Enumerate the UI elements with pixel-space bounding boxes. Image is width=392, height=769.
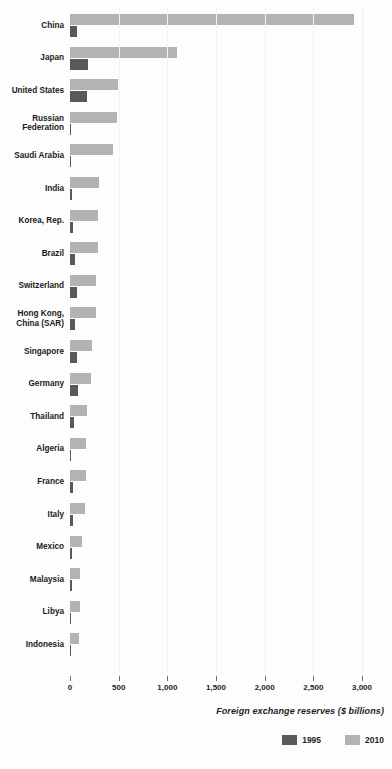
bar-2010[interactable]: [70, 373, 91, 384]
category-label: India: [0, 184, 64, 194]
category-label: Algeria: [0, 444, 64, 454]
x-axis-tick-label: 3,000: [352, 683, 372, 692]
bar-1995[interactable]: [70, 319, 75, 330]
category-label: Mexico: [0, 542, 64, 552]
category-label: Singapore: [0, 347, 64, 357]
category-label: China: [0, 21, 64, 31]
chart-figure: ChinaJapanUnited StatesRussian Federatio…: [0, 0, 392, 769]
bar-1995[interactable]: [70, 287, 77, 298]
bar-2010[interactable]: [70, 275, 96, 286]
x-axis-tick: [265, 676, 266, 681]
category-label: Germany: [0, 379, 64, 389]
category-label: Japan: [0, 53, 64, 63]
category-label: Thailand: [0, 412, 64, 422]
legend-swatch-2010-icon: [345, 735, 360, 745]
bar-1995[interactable]: [70, 189, 72, 200]
bar-1995[interactable]: [70, 613, 71, 624]
category-label: Malaysia: [0, 575, 64, 585]
chart-row: Germany: [0, 373, 392, 405]
legend-swatch-1995-icon: [282, 735, 297, 745]
bar-1995[interactable]: [70, 580, 72, 591]
bar-2010[interactable]: [70, 112, 117, 123]
x-axis-tick: [70, 676, 71, 681]
bar-2010[interactable]: [70, 438, 86, 449]
gridline: [167, 8, 168, 676]
bar-1995[interactable]: [70, 124, 71, 135]
bar-2010[interactable]: [70, 503, 85, 514]
category-label: Switzerland: [0, 281, 64, 291]
bar-1995[interactable]: [70, 254, 75, 265]
category-label: Brazil: [0, 249, 64, 259]
bar-1995[interactable]: [70, 385, 78, 396]
x-axis-tick: [313, 676, 314, 681]
chart-row: Switzerland: [0, 275, 392, 307]
x-axis-tick-label: 0: [68, 683, 72, 692]
category-label: United States: [0, 86, 64, 96]
legend-label-1995: 1995: [302, 735, 321, 745]
chart-row: Thailand: [0, 405, 392, 437]
x-axis-tick: [119, 676, 120, 681]
bar-1995[interactable]: [70, 417, 74, 428]
x-axis-title: Foreign exchange reserves ($ billions): [216, 706, 384, 716]
chart-row: France: [0, 470, 392, 502]
category-label: Libya: [0, 607, 64, 617]
chart-row: Hong Kong, China (SAR): [0, 307, 392, 339]
legend-item-1995[interactable]: 1995: [282, 735, 321, 745]
bar-1995[interactable]: [70, 26, 77, 37]
bar-1995[interactable]: [70, 222, 73, 233]
bar-1995[interactable]: [70, 91, 87, 102]
bar-2010[interactable]: [70, 177, 99, 188]
bar-1995[interactable]: [70, 548, 72, 559]
category-label: Korea, Rep.: [0, 216, 64, 226]
bar-2010[interactable]: [70, 340, 92, 351]
x-axis-tick-label: 1,000: [157, 683, 177, 692]
gridline: [362, 8, 363, 676]
bar-2010[interactable]: [70, 470, 86, 481]
gridline: [265, 8, 266, 676]
chart-row: Libya: [0, 601, 392, 633]
chart-row: Singapore: [0, 340, 392, 372]
bar-2010[interactable]: [70, 405, 87, 416]
chart-row: Italy: [0, 503, 392, 535]
x-axis-tick: [167, 676, 168, 681]
chart-row: Indonesia: [0, 633, 392, 665]
bar-2010[interactable]: [70, 79, 118, 90]
x-axis-tick-label: 1,500: [206, 683, 226, 692]
bar-1995[interactable]: [70, 352, 77, 363]
x-axis-tick: [216, 676, 217, 681]
gridline: [313, 8, 314, 676]
bar-2010[interactable]: [70, 47, 177, 58]
x-axis-tick: [362, 676, 363, 681]
chart-row: Japan: [0, 47, 392, 79]
chart-row: India: [0, 177, 392, 209]
bar-1995[interactable]: [70, 645, 71, 656]
bar-2010[interactable]: [70, 210, 98, 221]
chart-row: Algeria: [0, 438, 392, 470]
chart-row: China: [0, 14, 392, 46]
bar-1995[interactable]: [70, 515, 73, 526]
bar-2010[interactable]: [70, 568, 80, 579]
legend-item-2010[interactable]: 2010: [345, 735, 384, 745]
gridline: [216, 8, 217, 676]
chart-row: Korea, Rep.: [0, 210, 392, 242]
bar-2010[interactable]: [70, 14, 354, 25]
bar-1995[interactable]: [70, 482, 73, 493]
x-axis-tick-label: 2,500: [303, 683, 323, 692]
bar-2010[interactable]: [70, 242, 98, 253]
bar-2010[interactable]: [70, 144, 113, 155]
chart-row: Malaysia: [0, 568, 392, 600]
bar-2010[interactable]: [70, 633, 79, 644]
category-label: Saudi Arabia: [0, 151, 64, 161]
gridline: [119, 8, 120, 676]
chart-row: Mexico: [0, 536, 392, 568]
bar-2010[interactable]: [70, 307, 96, 318]
category-label: Hong Kong, China (SAR): [0, 309, 64, 328]
chart-row: Brazil: [0, 242, 392, 274]
category-label: Indonesia: [0, 640, 64, 650]
bar-1995[interactable]: [70, 450, 71, 461]
bar-2010[interactable]: [70, 536, 82, 547]
category-label: Italy: [0, 510, 64, 520]
bar-1995[interactable]: [70, 59, 88, 70]
bar-2010[interactable]: [70, 601, 80, 612]
bar-1995[interactable]: [70, 156, 71, 167]
